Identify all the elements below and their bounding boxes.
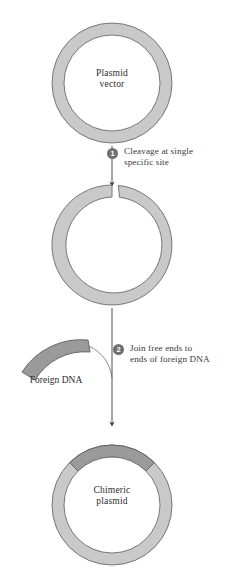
plasmid-vector-label: Plasmid vector [58,68,166,90]
chimeric-plasmid-label: Chimeric plasmid [58,485,166,507]
step-2-text: Join free ends to ends of foreign DNA [130,343,234,365]
foreign-dna-label: Foreign DNA [8,375,104,386]
step-1-text: Cleavage at single specific site [124,146,232,168]
foreign-dna-connector [89,346,112,378]
plasmid-cloning-diagram: Plasmid vector 1 Cleavage at single spec… [0,0,236,576]
cleaved-plasmid-ring [52,185,172,305]
step-2-badge: 2 [113,344,124,355]
step-1-badge: 1 [107,148,118,159]
foreign-dna-arc [22,340,90,380]
